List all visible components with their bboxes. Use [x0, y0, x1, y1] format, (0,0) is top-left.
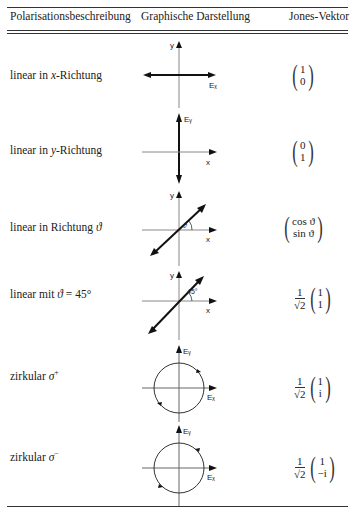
row-6-jones-vector: 1√2 (1−i) [294, 452, 337, 482]
y-axis-label: y [170, 271, 174, 280]
diagram-linear-x: y Eₓ [130, 38, 230, 108]
header-graphic: Graphische Darstellung [141, 10, 250, 22]
y-axis-label: Eᵧ [183, 427, 191, 436]
row-3-jones-vector: (cos ϑsin ϑ) [282, 212, 325, 242]
diagram-circular-plus: Eᵧ Eₓ [130, 342, 230, 422]
y-axis-label: y [170, 191, 174, 200]
row-2-description: linear in y-Richtung [10, 144, 102, 156]
header-jones: Jones-Vektor [289, 10, 349, 22]
row-1-description: linear in x-Richtung [10, 69, 102, 81]
header-rule-1 [7, 30, 348, 31]
row-5-jones-vector: 1√2 (1i) [294, 372, 333, 402]
row-6-description: zirkular σ− [10, 449, 59, 463]
x-axis-label: x [206, 306, 210, 315]
row-2-jones-vector: (01) [290, 136, 316, 166]
x-axis-label: Eₓ [207, 393, 215, 402]
header-description: Polarisationsbeschreibung [10, 10, 131, 22]
row-5-description: zirkular σ+ [10, 368, 59, 382]
x-axis-label: x [206, 158, 210, 167]
bottom-rule [7, 506, 348, 507]
row-1-jones-vector: (10) [290, 60, 316, 90]
x-axis-label: Eₓ [209, 81, 217, 90]
diagram-linear-y: Eᵧ x [130, 108, 230, 186]
top-rule [7, 7, 348, 8]
y-axis-label: y [170, 41, 174, 50]
y-axis-label: Eᵧ [183, 347, 191, 356]
row-3-description: linear in Richtung ϑ [10, 221, 102, 233]
row-4-jones-vector: 1√2 (11) [294, 283, 333, 313]
diagram-linear-45: y x 45° [130, 268, 230, 340]
angle-label: 45° [187, 288, 198, 295]
row-4-description: linear mit ϑ = 45° [10, 288, 91, 300]
x-axis-label: x [206, 235, 210, 244]
header-rule-2 [7, 33, 348, 34]
x-axis-label: Eₓ [207, 473, 215, 482]
diagram-linear-theta: y x ϑ [130, 188, 230, 266]
diagram-circular-minus: Eᵧ Eₓ [130, 422, 230, 506]
y-axis-label: Eᵧ [184, 115, 192, 124]
